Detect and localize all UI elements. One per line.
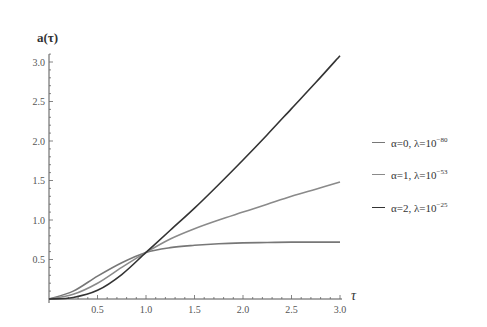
x-tick-label: 1.0 xyxy=(140,304,153,315)
y-tick-label: 1.5 xyxy=(33,175,46,186)
y-tick-label: 0.5 xyxy=(33,254,46,265)
legend-item: α=0, λ=10−80 xyxy=(372,126,447,159)
y-tick-label: 2.0 xyxy=(33,136,46,147)
legend-swatch-alpha0 xyxy=(372,142,385,143)
y-tick-label: 1.0 xyxy=(33,215,46,226)
y-axis-label: a(τ) xyxy=(37,30,58,45)
legend-exponent: −25 xyxy=(437,201,448,209)
series-line-alpha0 xyxy=(49,242,340,299)
series-line-alpha1 xyxy=(49,182,340,299)
x-tick-label: 1.5 xyxy=(188,304,201,315)
axes: 0.51.01.52.02.53.00.51.01.52.02.53.0 xyxy=(33,54,347,315)
legend-exponent: −53 xyxy=(437,168,448,176)
x-axis-label: τ xyxy=(351,288,357,303)
y-tick-label: 3.0 xyxy=(33,57,46,68)
legend-label: α=0, λ=10 xyxy=(391,137,437,149)
x-tick-label: 2.0 xyxy=(237,304,250,315)
legend-swatch-alpha2 xyxy=(372,207,385,208)
legend-label: α=1, λ=10 xyxy=(391,169,437,181)
x-tick-label: 0.5 xyxy=(91,304,104,315)
x-tick-label: 3.0 xyxy=(334,304,347,315)
legend: α=0, λ=10−80 α=1, λ=10−53 α=2, λ=10−25 xyxy=(372,126,447,224)
legend-item: α=2, λ=10−25 xyxy=(372,191,447,224)
series-line-alpha2 xyxy=(49,56,340,299)
legend-item: α=1, λ=10−53 xyxy=(372,159,447,192)
y-tick-label: 2.5 xyxy=(33,96,46,107)
legend-label: α=2, λ=10 xyxy=(391,202,437,214)
legend-swatch-alpha1 xyxy=(372,174,385,175)
curves xyxy=(49,56,340,299)
x-tick-label: 2.5 xyxy=(285,304,298,315)
legend-exponent: −80 xyxy=(437,136,448,144)
